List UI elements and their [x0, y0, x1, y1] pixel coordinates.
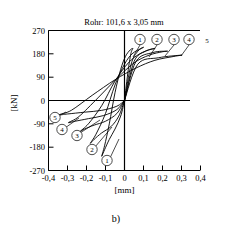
x-tick-label: 0,1 [138, 173, 149, 183]
series-label-1-bottom: 1 [105, 157, 109, 165]
x-tick-label: -0,1 [99, 173, 112, 183]
y-tick-label: -180 [29, 142, 45, 152]
series-label-4-top: 4 [187, 36, 191, 44]
y-tick-label: 180 [32, 49, 45, 59]
y-axis-tick-labels: 270 180 90 0 -90 -180 -270 [29, 26, 45, 176]
y-tick-label: 90 [37, 72, 46, 82]
leader-line [110, 139, 119, 158]
x-tick-label: -0,4 [42, 173, 56, 183]
y-tick-label: -90 [34, 119, 45, 129]
hysteresis-chart: Rohr: 101,6 x 3,05 mm 270 180 90 [0, 0, 232, 234]
x-tick-label: 0 [122, 173, 126, 183]
x-tick-label: 0,2 [157, 173, 168, 183]
x-tick-label: 0,3 [176, 173, 187, 183]
figure-caption: b) [112, 213, 120, 225]
x-tick-label: -0,3 [61, 173, 74, 183]
y-axis-title: [kN] [9, 95, 19, 112]
series-label-3-top: 3 [172, 36, 176, 44]
leader-line [149, 45, 157, 57]
x-axis-title: [mm] [115, 185, 135, 195]
x-axis-tick-labels: -0,4 -0,3 -0,2 -0,1 0 0,1 0,2 0,3 0,4 [42, 173, 207, 183]
leader-line [95, 127, 112, 147]
y-tick-label: 0 [41, 96, 45, 106]
series-label-5-top: 5 [205, 37, 209, 45]
leader-line [65, 118, 79, 128]
hysteresis-loop-1 [102, 48, 133, 156]
series-label-4-bottom: 4 [60, 126, 64, 134]
series-label-5-bottom: 5 [53, 114, 57, 122]
x-tick-label: 0,4 [195, 173, 206, 183]
chart-title: Rohr: 101,6 x 3,05 mm [84, 17, 164, 27]
y-axis-ticks [49, 31, 54, 171]
x-tick-label: -0,2 [80, 173, 93, 183]
x-axis-ticks [49, 166, 201, 171]
top-annotations: 1 2 3 4 5 [133, 34, 209, 57]
series-label-2-bottom: 2 [90, 146, 94, 154]
series-label-3-bottom: 3 [75, 132, 79, 140]
y-tick-label: 270 [32, 26, 45, 36]
series-label-1-top: 1 [138, 36, 142, 44]
leader-line [181, 45, 189, 56]
series-label-2-top: 2 [155, 36, 159, 44]
figure-container: Rohr: 101,6 x 3,05 mm 270 180 90 [0, 0, 232, 234]
leader-line [165, 45, 174, 56]
